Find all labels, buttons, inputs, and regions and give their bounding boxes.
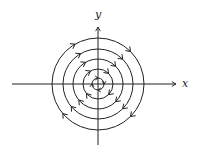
phase-portrait-diagram [0,0,197,152]
x-axis-label: x [182,78,188,89]
y-axis-label: y [95,9,101,20]
